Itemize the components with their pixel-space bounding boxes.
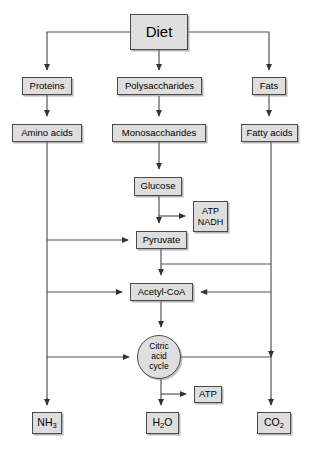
node-atp-nadh[interactable]: ATP NADH xyxy=(193,201,228,232)
node-water-formula: H2O xyxy=(153,417,173,429)
carbon-dioxide-subscript: 2 xyxy=(280,421,284,430)
node-fatty-acids-label: Fatty acids xyxy=(247,128,293,139)
node-glucose-label: Glucose xyxy=(141,181,176,192)
flowchart-diagram: Diet Proteins Polysaccharides Fats Amino… xyxy=(0,0,317,450)
node-atp[interactable]: ATP xyxy=(194,386,222,403)
node-carbon-dioxide-formula: CO2 xyxy=(264,417,284,429)
node-pyruvate-label: Pyruvate xyxy=(143,235,181,246)
ammonia-subscript: 3 xyxy=(52,421,56,430)
node-fatty-acids[interactable]: Fatty acids xyxy=(241,124,298,142)
node-diet-label: Diet xyxy=(146,24,173,41)
node-water[interactable]: H2O xyxy=(146,412,179,434)
water-element-h: H xyxy=(153,416,161,428)
node-ammonia[interactable]: NH3 xyxy=(32,412,62,434)
flow-connectors xyxy=(0,0,317,450)
carbon-dioxide-element: CO xyxy=(264,416,280,428)
node-pyruvate[interactable]: Pyruvate xyxy=(136,231,187,249)
node-monosaccharides[interactable]: Monosaccharides xyxy=(112,124,206,142)
node-fats-label: Fats xyxy=(260,81,278,92)
node-glucose[interactable]: Glucose xyxy=(134,177,182,196)
node-fats[interactable]: Fats xyxy=(252,77,286,95)
node-amino-acids[interactable]: Amino acids xyxy=(12,124,82,142)
node-acetyl-coa-label: Acetyl-CoA xyxy=(138,287,186,298)
node-monosaccharides-label: Monosaccharides xyxy=(122,128,196,139)
water-element-o: O xyxy=(164,416,172,428)
node-atp-label: ATP xyxy=(199,389,217,400)
node-amino-acids-label: Amino acids xyxy=(21,128,73,139)
ammonia-element: NH xyxy=(37,416,52,428)
node-diet[interactable]: Diet xyxy=(130,14,188,50)
node-polysaccharides-label: Polysaccharides xyxy=(125,81,194,92)
node-citric-acid-cycle[interactable]: Citric acid cycle xyxy=(137,335,181,379)
node-atp-nadh-label-nadh: NADH xyxy=(198,217,224,227)
node-acetyl-coa[interactable]: Acetyl-CoA xyxy=(130,283,193,301)
node-ammonia-formula: NH3 xyxy=(37,417,56,429)
node-carbon-dioxide[interactable]: CO2 xyxy=(257,412,291,434)
node-polysaccharides[interactable]: Polysaccharides xyxy=(117,77,202,95)
node-citric-acid-cycle-line3: cycle xyxy=(149,362,168,372)
node-atp-nadh-label-atp: ATP xyxy=(202,206,219,216)
node-proteins-label: Proteins xyxy=(30,81,65,92)
water-subscript: 2 xyxy=(160,421,164,430)
node-proteins[interactable]: Proteins xyxy=(22,77,72,95)
